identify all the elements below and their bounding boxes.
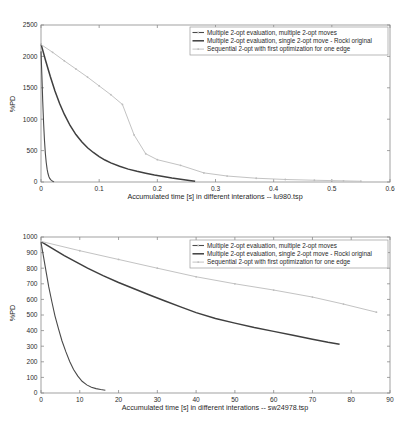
x-tick-label: 0.3 [211,185,220,192]
series-marker-2 [156,159,158,161]
series-marker-2 [79,250,81,252]
y-tick-label: 900 [26,249,37,256]
series-marker-2 [312,296,314,298]
series-marker-2 [40,240,42,242]
series-marker-2 [313,179,315,181]
x-tick-label: 30 [154,396,162,403]
series-marker-2 [87,76,89,78]
y-tick-label: 2000 [23,53,38,60]
x-tick-label: 60 [270,396,278,403]
series-marker-2 [156,267,158,269]
y-tick-label: 400 [26,327,37,334]
series-line-2 [41,44,361,181]
series-marker-2 [343,180,345,182]
y-tick-label: 500 [26,147,37,154]
y-axis-title: %PD [8,305,17,321]
chart-panel-sw24978: 0102030405060708090010020030040050060070… [0,211,408,422]
series-marker-2 [255,177,257,179]
x-tick-label: 0.2 [153,185,162,192]
x-tick-label: 0.1 [95,185,104,192]
y-tick-label: 0 [34,389,38,396]
legend-sw24978: Multiple 2-opt evaluation, multiple 2-op… [190,240,388,268]
legend-label-0: Multiple 2-opt evaluation, multiple 2-op… [207,29,337,37]
series-marker-2 [75,68,77,70]
x-tick-label: 50 [231,396,239,403]
legend-label-2: Sequential 2-opt with first optimization… [207,258,351,266]
y-tick-label: 500 [26,311,37,318]
chart-canvas-lu980: 00.10.20.30.40.50.605001000150020002500 … [0,0,408,211]
y-tick-label: 1500 [23,84,38,91]
y-tick-label: 200 [26,358,37,365]
series-marker-2 [98,85,100,87]
y-tick-label: 1000 [23,233,38,240]
series-marker-2 [40,44,42,46]
x-tick-label: 40 [192,396,200,403]
series-marker-2 [122,104,124,106]
x-tick-label: 90 [386,396,394,403]
x-tick-label: 0.6 [385,185,394,192]
y-axis-title: %PD [8,96,17,112]
y-tick-label: 700 [26,280,37,287]
series-marker-2 [145,153,147,155]
series-marker-2 [360,180,362,182]
series-marker-2 [376,311,378,313]
x-tick-label: 0.5 [327,185,336,192]
series-line-1 [41,44,195,181]
y-tick-label: 2500 [23,21,38,28]
series-line-0 [41,242,105,390]
series-marker-2 [273,289,275,291]
series-marker-2 [180,164,182,166]
legend-lu980: Multiple 2-opt evaluation, multiple 2-op… [190,27,388,55]
legend-label-1: Multiple 2-opt evaluation, single 2-opt … [207,250,372,258]
series-marker-2 [118,259,120,261]
chart-canvas-sw24978: 0102030405060708090010020030040050060070… [0,211,408,422]
legend-marker-2 [197,261,199,263]
series-marker-2 [203,172,205,174]
chart-panel-lu980: 00.10.20.30.40.50.605001000150020002500 … [0,0,408,211]
y-tick-label: 100 [26,374,37,381]
x-tick-label: 70 [309,396,317,403]
legend-label-1: Multiple 2-opt evaluation, single 2-opt … [207,37,372,45]
y-tick-label: 800 [26,265,37,272]
series-marker-2 [133,134,135,136]
x-tick-label: 0.4 [269,185,278,192]
x-tick-label: 10 [76,396,84,403]
series-group-lu980 [40,44,362,183]
legend-marker-0 [197,32,199,34]
x-axis-title: Accumulated time [s] in different intera… [122,403,308,412]
series-marker-2 [195,276,197,278]
legend-marker-2 [197,48,199,50]
y-tick-label: 300 [26,343,37,350]
series-marker-2 [52,51,54,53]
series-marker-2 [284,179,286,181]
legend-marker-0 [197,245,199,247]
x-tick-label: 80 [348,396,356,403]
series-marker-2 [110,94,112,96]
legend-label-2: Sequential 2-opt with first optimization… [207,45,351,53]
x-tick-label: 20 [115,396,123,403]
x-tick-label: 0 [39,396,43,403]
series-marker-2 [63,60,65,62]
series-marker-2 [343,303,345,305]
series-marker-2 [226,175,228,177]
y-tick-label: 600 [26,296,37,303]
x-axis-title: Accumulated time [s] in different intera… [127,192,302,201]
series-marker-2 [234,283,236,285]
series-line-0 [41,51,54,181]
y-tick-label: 1000 [23,116,38,123]
x-tick-label: 0 [39,185,43,192]
legend-label-0: Multiple 2-opt evaluation, multiple 2-op… [207,242,337,250]
y-tick-label: 0 [34,178,38,185]
